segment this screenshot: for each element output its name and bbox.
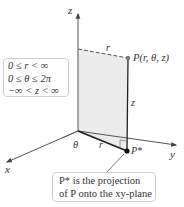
theta-reference xyxy=(62,131,78,138)
shaded-plane xyxy=(78,49,128,151)
point-P-star xyxy=(124,148,129,153)
note-line-1: P* is the projection xyxy=(59,175,155,188)
z-axis-label: z xyxy=(68,5,72,16)
projection-note-box: P* is the projection of P onto the xy-pl… xyxy=(52,172,156,202)
theta-label: θ xyxy=(73,140,78,151)
point-P-label: P(r, θ, z) xyxy=(133,53,169,64)
range-r: 0 ≤ r < ∞ xyxy=(8,60,68,73)
range-box: 0 ≤ r < ∞ 0 ≤ θ ≤ 2π −∞ < z < ∞ xyxy=(3,58,69,97)
z-height-label: z xyxy=(131,98,135,108)
r-top-label: r xyxy=(106,43,110,53)
note-line-2: of P onto the xy-plane xyxy=(59,188,155,201)
x-axis-label: x xyxy=(5,164,10,175)
range-theta: 0 ≤ θ ≤ 2π xyxy=(8,73,68,86)
note-leader xyxy=(106,154,124,173)
point-P xyxy=(126,56,130,60)
range-z: −∞ < z < ∞ xyxy=(8,85,68,98)
y-axis-label: y xyxy=(170,149,175,160)
r-bottom-label: r xyxy=(99,140,103,150)
point-P-star-label: P* xyxy=(131,146,142,156)
